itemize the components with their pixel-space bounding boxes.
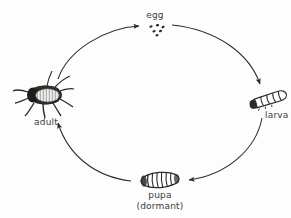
stage-label-pupa-sublabel: (dormant)	[136, 201, 183, 212]
stage-label-pupa: pupa (dormant)	[136, 190, 183, 212]
adult-beetle-illustration	[13, 71, 74, 118]
stage-label-pupa-main: pupa	[148, 190, 171, 200]
arrow-pupa-to-adult	[58, 123, 131, 181]
stage-label-egg: egg	[146, 10, 164, 21]
arrow-larva-to-pupa	[189, 118, 262, 180]
egg-cluster-illustration	[149, 24, 165, 37]
arrow-egg-to-larva	[172, 25, 260, 84]
arrow-adult-to-egg	[58, 26, 139, 79]
stage-label-larva: larva	[265, 110, 289, 121]
life-cycle-illustration-canvas	[0, 0, 291, 218]
pupa-cocoon-illustration	[140, 171, 179, 189]
insect-life-cycle-diagram: egg larva pupa (dormant) adult	[0, 0, 291, 218]
stage-label-adult: adult	[34, 117, 58, 128]
